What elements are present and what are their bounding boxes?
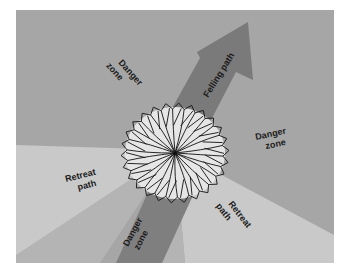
- felling-diagram: Danger zone Felling path Danger zone Ret…: [0, 0, 350, 276]
